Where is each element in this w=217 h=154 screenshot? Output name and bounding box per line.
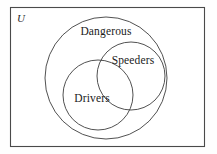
universe-label: U <box>17 12 26 24</box>
drivers-label: Drivers <box>74 92 110 104</box>
dangerous-label: Dangerous <box>80 25 132 38</box>
speeders-label: Speeders <box>112 54 155 67</box>
venn-diagram-canvas: U Dangerous Speeders Drivers <box>0 0 217 154</box>
venn-diagram-figure: U Dangerous Speeders Drivers <box>0 0 217 154</box>
